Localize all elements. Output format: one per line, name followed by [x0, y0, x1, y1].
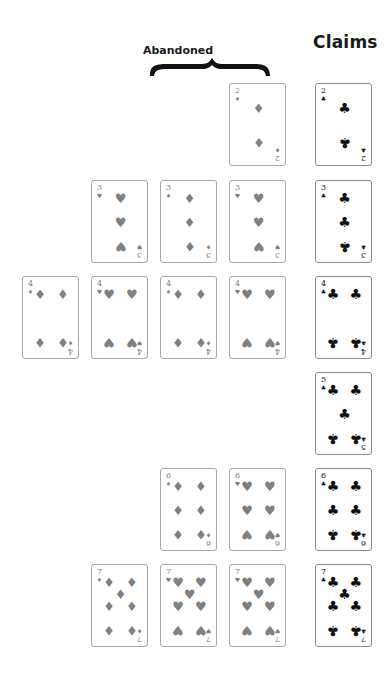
clubs-icon: ♣: [349, 480, 363, 494]
clubs-icon: ♣: [338, 408, 352, 422]
hearts-icon: ♥: [263, 623, 277, 637]
claim-card-4-clubs[interactable]: 4♣4♣♣♣♣♣: [315, 276, 372, 359]
abandoned-card-3-diamonds[interactable]: 3♦3♦♦♦♦: [160, 180, 217, 263]
abandoned-label: Abandoned: [128, 44, 228, 57]
hearts-icon: ♥: [240, 527, 254, 541]
diamonds-icon: ♦: [102, 600, 116, 614]
abandoned-card-6-diamonds[interactable]: 6♦6♦♦♦♦♦♦♦: [160, 468, 217, 551]
hearts-icon: ♥: [252, 216, 266, 230]
card-rank: 3: [137, 251, 142, 260]
diamonds-icon: ♦: [252, 102, 266, 116]
claim-card-2-clubs[interactable]: 2♣2♣♣♣: [315, 83, 372, 166]
claim-card-5-clubs[interactable]: 5♣5♣♣♣♣♣♣: [315, 372, 372, 455]
clubs-icon: ♣: [349, 600, 363, 614]
hearts-icon: ♥: [240, 480, 254, 494]
clubs-icon: ♣: [326, 431, 340, 445]
abandoned-card-6-hearts[interactable]: 6♥6♥♥♥♥♥♥♥: [229, 468, 286, 551]
diamonds-icon: ♦: [171, 480, 185, 494]
clubs-icon: ♣: [338, 192, 352, 206]
card-rank: 4: [97, 279, 102, 288]
diamonds-icon: ♦: [194, 480, 208, 494]
claim-card-6-clubs[interactable]: 6♣6♣♣♣♣♣♣♣: [315, 468, 372, 551]
abandoned-card-4-hearts[interactable]: 4♥4♥♥♥♥♥: [91, 276, 148, 359]
diamonds-icon: ♦: [183, 192, 197, 206]
diamonds-icon: ♦: [165, 192, 172, 199]
claim-card-7-clubs[interactable]: 7♣7♣♣♣♣♣♣♣♣: [315, 564, 372, 647]
card-corner-index: 3♦: [205, 244, 212, 259]
card-rank: 7: [97, 567, 102, 576]
hearts-icon: ♥: [125, 335, 139, 349]
hearts-icon: ♥: [240, 504, 254, 518]
hearts-icon: ♥: [240, 288, 254, 302]
clubs-icon: ♣: [326, 288, 340, 302]
card-rank: 4: [235, 279, 240, 288]
card-corner-index: 2♦: [274, 147, 281, 162]
clubs-icon: ♣: [338, 239, 352, 253]
hearts-icon: ♥: [263, 600, 277, 614]
clubs-icon: ♣: [338, 135, 352, 149]
diamonds-icon: ♦: [205, 244, 212, 251]
diamonds-icon: ♦: [194, 504, 208, 518]
hearts-icon: ♥: [234, 192, 241, 199]
diamonds-icon: ♦: [183, 239, 197, 253]
hearts-icon: ♥: [194, 623, 208, 637]
card-corner-index: 3♥: [96, 184, 103, 199]
claims-label: Claims: [313, 32, 378, 52]
card-corner-index: 2♣: [320, 87, 327, 102]
card-rank: 3: [361, 251, 366, 260]
card-rank: 4: [166, 279, 171, 288]
clubs-icon: ♣: [326, 480, 340, 494]
abandoned-card-3-hearts[interactable]: 3♥3♥♥♥♥: [229, 180, 286, 263]
abandoned-card-7-hearts[interactable]: 7♥7♥♥♥♥♥♥♥♥: [160, 564, 217, 647]
card-rank: 3: [206, 251, 211, 260]
hearts-icon: ♥: [171, 623, 185, 637]
card-rank: 6: [321, 471, 326, 480]
hearts-icon: ♥: [263, 527, 277, 541]
clubs-icon: ♣: [326, 504, 340, 518]
abandoned-card-2-diamonds[interactable]: 2♦2♦♦♦: [229, 83, 286, 166]
card-rank: 4: [28, 279, 33, 288]
hearts-icon: ♥: [240, 623, 254, 637]
hearts-icon: ♥: [240, 335, 254, 349]
card-rank: 6: [166, 471, 171, 480]
diamonds-icon: ♦: [125, 623, 139, 637]
clubs-icon: ♣: [349, 527, 363, 541]
abandoned-card-3-hearts[interactable]: 3♥3♥♥♥♥: [91, 180, 148, 263]
abandoned-card-4-hearts[interactable]: 4♥4♥♥♥♥♥: [229, 276, 286, 359]
hearts-icon: ♥: [274, 244, 281, 251]
clubs-icon: ♣: [349, 431, 363, 445]
hearts-icon: ♥: [96, 192, 103, 199]
hearts-icon: ♥: [194, 600, 208, 614]
diamonds-icon: ♦: [171, 504, 185, 518]
card-corner-index: 3♥: [234, 184, 241, 199]
card-rank: 7: [321, 567, 326, 576]
card-rank: 3: [321, 183, 326, 192]
card-corner-index: 3♣: [320, 184, 327, 199]
clubs-icon: ♣: [349, 335, 363, 349]
card-corner-index: 2♦: [234, 87, 241, 102]
clubs-icon: ♣: [338, 102, 352, 116]
card-rank: 3: [166, 183, 171, 192]
card-corner-index: 3♦: [165, 184, 172, 199]
abandoned-card-7-hearts[interactable]: 7♥7♥♥♥♥♥♥♥♥: [229, 564, 286, 647]
clubs-icon: ♣: [326, 384, 340, 398]
diamonds-icon: ♦: [125, 600, 139, 614]
diamonds-icon: ♦: [33, 288, 47, 302]
card-corner-index: 3♥: [136, 244, 143, 259]
hearts-icon: ♥: [171, 600, 185, 614]
diamonds-icon: ♦: [183, 216, 197, 230]
abandoned-card-4-diamonds[interactable]: 4♦4♦♦♦♦♦: [160, 276, 217, 359]
hearts-icon: ♥: [263, 335, 277, 349]
diamonds-icon: ♦: [171, 288, 185, 302]
hearts-icon: ♥: [125, 288, 139, 302]
claim-card-3-clubs[interactable]: 3♣3♣♣♣♣: [315, 180, 372, 263]
card-rank: 7: [235, 567, 240, 576]
abandoned-card-7-diamonds[interactable]: 7♦7♦♦♦♦♦♦♦♦: [91, 564, 148, 647]
hearts-icon: ♥: [114, 192, 128, 206]
abandoned-card-4-diamonds[interactable]: 4♦4♦♦♦♦♦: [22, 276, 79, 359]
clubs-icon: ♣: [349, 384, 363, 398]
diamonds-icon: ♦: [234, 95, 241, 102]
curly-brace-icon: [148, 58, 272, 78]
hearts-icon: ♥: [240, 600, 254, 614]
diamonds-icon: ♦: [56, 288, 70, 302]
